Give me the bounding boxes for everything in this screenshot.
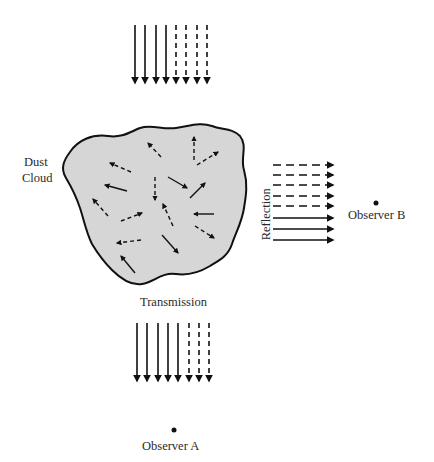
incident-beam: [135, 25, 207, 83]
observer-a-label: Observer A: [142, 440, 199, 453]
cloud-label: Cloud: [22, 172, 53, 185]
dust-cloud-shape: [63, 124, 246, 284]
dust-label: Dust: [24, 156, 48, 169]
transmission-label: Transmission: [140, 296, 207, 309]
dust-cloud-diagram: [0, 0, 434, 462]
observer-b-dot: [374, 201, 379, 206]
observer-a-dot: [172, 428, 177, 433]
transmitted-beam: [137, 323, 209, 381]
observer-b-label: Observer B: [348, 209, 405, 222]
reflection-label: Reflection: [260, 184, 273, 244]
reflected-beam: [273, 165, 333, 240]
